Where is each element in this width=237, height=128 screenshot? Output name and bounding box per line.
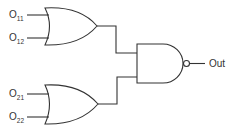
wire-or2-to-nand bbox=[98, 77, 137, 104]
input-label-o21: O21 bbox=[9, 88, 24, 101]
input-label-o22: O22 bbox=[9, 111, 24, 124]
input-label-o11: O11 bbox=[9, 9, 24, 22]
or-gate-1 bbox=[45, 8, 97, 45]
wire-or1-to-nand bbox=[97, 26, 137, 53]
or-gate-2 bbox=[45, 85, 98, 124]
inversion-bubble bbox=[184, 61, 190, 67]
input-label-o12: O12 bbox=[9, 32, 24, 45]
logic-circuit-diagram: O11 O12 O21 O22 Out bbox=[0, 0, 237, 128]
nand-gate bbox=[137, 44, 183, 83]
output-label: Out bbox=[209, 58, 225, 69]
